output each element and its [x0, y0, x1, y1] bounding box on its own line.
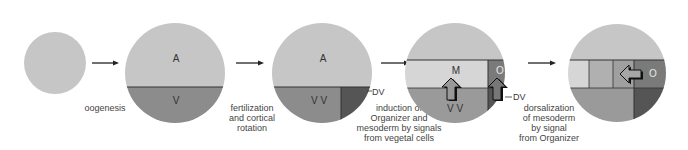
- arrow-right-icon: [92, 61, 119, 66]
- arrow-right-icon: [236, 61, 264, 66]
- caption-dorsalization: dorsalization of mesoderm by signal from…: [519, 103, 579, 143]
- svg-text:rotation: rotation: [237, 123, 267, 133]
- embryo-development-diagram: A V oogenesis fertilization and cortical…: [0, 0, 688, 150]
- animal-label: A: [320, 53, 327, 64]
- vegetal-label: V: [173, 95, 180, 106]
- organizer-label: O: [649, 68, 657, 79]
- stage-oocyte: [120, 20, 230, 127]
- dorsal-vegetal-label: DV: [372, 87, 385, 97]
- caption-fertilization: fertilization and cortical rotation: [229, 103, 275, 133]
- arrow-right-icon: [381, 61, 410, 66]
- svg-text:Organizer and: Organizer and: [370, 113, 427, 123]
- svg-text:mesoderm by signals: mesoderm by signals: [356, 123, 442, 133]
- mesoderm-label: M: [452, 65, 460, 76]
- stage-fertilized: [270, 20, 381, 127]
- svg-text:dorsalization: dorsalization: [524, 103, 575, 113]
- arrow-right-icon: [528, 61, 556, 66]
- svg-text:induction of: induction of: [376, 103, 423, 113]
- vegetal-label: V V: [311, 95, 327, 106]
- caption-oogenesis: oogenesis: [84, 103, 126, 113]
- animal-label: A: [173, 53, 180, 64]
- svg-text:and cortical: and cortical: [229, 113, 275, 123]
- dorsal-vegetal-label: DV: [513, 92, 526, 102]
- svg-text:from Organizer: from Organizer: [519, 133, 579, 143]
- svg-text:from vegetal cells: from vegetal cells: [364, 133, 435, 143]
- svg-text:of mesoderm: of mesoderm: [523, 113, 576, 123]
- svg-text:by signal: by signal: [531, 123, 567, 133]
- vegetal-label: V V: [447, 103, 463, 114]
- organizer-label: O: [496, 65, 504, 76]
- svg-text:fertilization: fertilization: [230, 103, 273, 113]
- stage-egg: [24, 32, 86, 94]
